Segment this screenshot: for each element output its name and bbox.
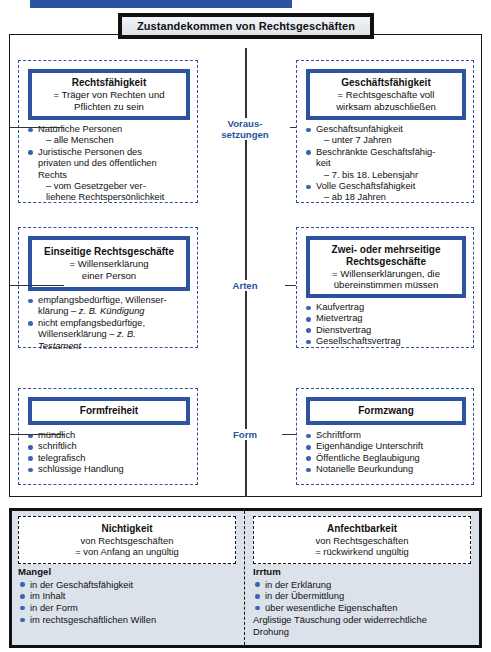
list-item: über wesentliche Eigenschaften [253,602,483,614]
head-box-anfechtbarkeit: Anfechtbarkeit von Rechtsgeschäften = rü… [253,516,471,564]
list-item: in der Form [18,602,240,614]
list-item: Arglistige Täuschung oder widerrechtlich… [253,614,483,626]
head-sub-geschaeftsfaehigkeit-2: wirksam abzuschließen [336,101,436,113]
head-box-geschaeftsfaehigkeit: Geschäftsfähigkeit = Rechtsgeschäfte vol… [306,69,466,120]
head-box-formfreiheit: Formfreiheit [28,397,190,425]
bullet-list-anfechtbarkeit: Irrtum in der Erklärung in der Übermittl… [253,566,483,637]
list-item: – 7. bis 18. Lebensjahr [305,170,473,181]
list-item: Willenserklärung – z. B. [27,329,197,340]
bottom-section-divider [244,511,245,645]
head-box-zwei-oder-mehrseitige: Zwei- oder mehrseitige Rechtsgeschäfte =… [306,236,466,298]
panel-geschaeftsfaehigkeit: Geschäftsfähigkeit = Rechtsgeschäfte vol… [296,60,474,203]
head-title-geschaeftsfaehigkeit: Geschäftsfähigkeit [341,77,430,89]
bullet-list-geschaeftsfaehigkeit: Geschäftsunfähigkeit – unter 7 Jahren Be… [305,124,473,204]
head-sub-nichtigkeit-1: von Rechtsgeschäften [81,535,174,547]
list-item: im rechtsgeschäftlichen Willen [18,614,240,626]
head-sub-anfechtbarkeit-1: von Rechtsgeschäften [316,535,409,547]
mid-label-arten: Arten [205,280,285,291]
list-item: – ab 18 Jahren [305,192,473,203]
list-item: Dienstvertrag [305,325,473,336]
connector-left-row3 [9,434,64,435]
diagram-title-box: Zustandekommen von Rechtsgeschäften [118,13,374,39]
list-item-example: z. B. Kündigung [79,306,145,316]
head-title-nichtigkeit: Nichtigkeit [101,523,152,535]
list-item: Notarielle Beurkundung [305,464,473,475]
head-box-nichtigkeit: Nichtigkeit von Rechtsgeschäften = von A… [18,516,236,564]
mid-label-form: Form [208,429,282,440]
list-item: Mietvertrag [305,313,473,324]
list-item: privaten und des öffentlichen [27,158,195,169]
category-label-mangel: Mangel [18,566,240,578]
list-item-text: klärung – [38,306,79,316]
panel-einseitige-rechtsgeschaefte: Einseitige Rechtsgeschäfte = Willenserkl… [18,227,198,348]
bullet-list-einseitige: empfangsbedürftige, Willenser- klärung –… [27,295,197,352]
head-title-formfreiheit: Formfreiheit [80,405,138,417]
head-title-rechtsfaehigkeit: Rechtsfähigkeit [72,77,146,89]
head-box-einseitige-rechtsgeschaefte: Einseitige Rechtsgeschäfte = Willenserkl… [28,236,190,291]
list-item: in der Geschäftsfähigkeit [18,579,240,591]
head-title-mehrseitige-2: Rechtsgeschäfte [346,256,426,268]
list-item: Testament [27,341,197,352]
head-sub-rechtsfaehigkeit-1: = Träger von Rechten und [53,89,164,101]
connector-left-row2 [9,285,64,286]
category-label-irrtum: Irrtum [253,566,483,578]
list-item: keit [305,158,473,169]
head-sub-einseitige-2: einer Person [82,270,136,282]
list-item: klärung – z. B. Kündigung [27,306,197,317]
list-item: liehene Rechtspersönlichkeit [27,192,195,203]
list-item: nicht empfangsbedürftige, [27,318,197,329]
list-item: – unter 7 Jahren [305,135,473,146]
list-item: mündlich [27,430,195,441]
page-title: Zustandekommen von Rechtsgeschäften [137,20,355,32]
list-item-example: z. B. [117,329,136,339]
head-title-mehrseitige-1: Zwei- oder mehrseitige [332,244,441,256]
panel-rechtsfaehigkeit: Rechtsfähigkeit = Träger von Rechten und… [18,60,198,203]
list-item: Juristische Personen des [27,147,195,158]
mid-label-voraussetzungen-line2: setzungen [200,129,290,140]
list-item: in der Erklärung [253,579,483,591]
list-item: Geschäftsunfähigkeit [305,124,473,135]
panel-formzwang: Formzwang Schriftform Eigenhändige Unter… [296,388,474,485]
list-item: – vom Gesetzgeber ver- [27,181,195,192]
head-title-anfechtbarkeit: Anfechtbarkeit [327,523,397,535]
panel-zwei-oder-mehrseitige: Zwei- oder mehrseitige Rechtsgeschäfte =… [296,227,474,348]
mid-label-voraussetzungen: Voraus- setzungen [200,118,290,140]
list-item: Öffentliche Beglaubigung [305,453,473,464]
head-sub-rechtsfaehigkeit-2: Pflichten zu sein [74,101,144,113]
head-sub-anfechtbarkeit-2: = rückwirkend ungültig [315,546,409,558]
bullet-list-nichtigkeit: Mangel in der Geschäftsfähigkeit im Inha… [18,566,240,626]
bullet-list-rechtsfaehigkeit: Natürliche Personen – alle Menschen Juri… [27,124,195,204]
list-item: in der Übermittlung [253,590,483,602]
list-item: Natürliche Personen [27,124,195,135]
top-blue-strip [30,0,292,8]
head-sub-mehrseitige-1: = Willenserklärungen, die [332,268,440,280]
list-item: empfangsbedürftige, Willenser- [27,295,197,306]
list-item: Schriftform [305,430,473,441]
list-item-text: Willenserklärung – [38,329,117,339]
list-item: Beschränkte Geschäftsfähig- [305,147,473,158]
head-box-formzwang: Formzwang [306,397,466,425]
list-item: schlüssige Handlung [27,464,195,475]
head-sub-geschaeftsfaehigkeit-1: = Rechtsgeschäfte voll [338,89,435,101]
list-item: Rechts [27,170,195,181]
diagram-page: Zustandekommen von Rechtsgeschäften Vora… [0,0,491,652]
connector-left-row1 [9,127,64,128]
head-title-einseitige: Einseitige Rechtsgeschäfte [44,246,174,258]
list-item: Volle Geschäftsfähigkeit [305,181,473,192]
bullet-list-formzwang: Schriftform Eigenhändige Unterschrift Öf… [305,430,473,476]
list-item: Gesellschaftsvertrag [305,336,473,347]
list-item: im Inhalt [18,590,240,602]
list-item: – alle Menschen [27,135,195,146]
panel-formfreiheit: Formfreiheit mündlich schriftlich telegr… [18,388,198,485]
head-title-formzwang: Formzwang [358,405,414,417]
list-item: telegrafisch [27,453,195,464]
head-sub-nichtigkeit-2: = von Anfang an ungültig [75,546,178,558]
bullet-list-mehrseitige: Kaufvertrag Mietvertrag Dienstvertrag Ge… [305,302,473,348]
head-sub-einseitige-1: = Willenserklärung [69,258,148,270]
list-item: Eigenhändige Unterschrift [305,441,473,452]
head-box-rechtsfaehigkeit: Rechtsfähigkeit = Träger von Rechten und… [28,69,190,120]
mid-label-voraussetzungen-line1: Voraus- [200,118,290,129]
list-item: Drohung [253,626,483,638]
list-item: Kaufvertrag [305,302,473,313]
head-sub-mehrseitige-2: übereinstimmen müssen [334,279,439,291]
